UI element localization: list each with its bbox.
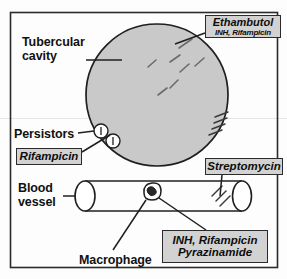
macrophage-label: Macrophage (79, 254, 152, 268)
inh-pyrazinamide-box-line1: INH, Rifampicin (163, 234, 267, 246)
tubercular-cavity-label: Tubercular cavity (22, 36, 85, 63)
leader-streptomycin (220, 175, 222, 196)
leader-inh-pyrazinamide (159, 198, 206, 230)
rifampicin-box-main: Rifampicin (17, 150, 81, 162)
blood-vessel-label-line2: vessel (18, 196, 56, 210)
ethambutol-box: Ethambutol INH, Rifampicin (205, 15, 281, 38)
streptomycin-box-main: Streptomycin (206, 160, 282, 172)
tb-drug-action-diagram: Tubercular cavity Persistors Blood vesse… (0, 0, 287, 279)
blood-vessel-shape (75, 181, 252, 211)
tubercular-cavity-label-line1: Tubercular (22, 36, 85, 50)
leader-persistors (78, 131, 94, 133)
macrophage-shape (144, 183, 161, 200)
vessel-left-cap (75, 181, 95, 211)
streptomycin-box: Streptomycin (205, 158, 283, 175)
rifampicin-box: Rifampicin (16, 148, 82, 165)
leader-macrophage (113, 200, 146, 250)
ethambutol-box-sub: INH, Rifampicin (206, 29, 280, 37)
blood-vessel-label: Blood vessel (18, 182, 56, 209)
inh-pyrazinamide-box-line2: Pyrazinamide (163, 246, 267, 258)
persistors-label: Persistors (14, 128, 74, 142)
blood-vessel-label-line1: Blood (18, 182, 56, 196)
vessel-right-cap (233, 181, 252, 211)
bacillus-hatch (220, 196, 230, 206)
tubercular-cavity-label-line2: cavity (22, 50, 85, 64)
inh-pyrazinamide-box: INH, Rifampicin Pyrazinamide (162, 230, 268, 263)
ethambutol-box-main: Ethambutol (206, 17, 280, 29)
